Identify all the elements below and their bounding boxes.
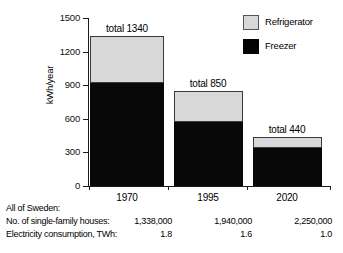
y-tick-1500	[83, 18, 88, 19]
legend-label-refrigerator: Refrigerator	[265, 16, 313, 28]
footer-row-electricity: Electricity consumption, TWh: 1.8 1.6 1.…	[6, 229, 338, 242]
bar-1970-freezer	[90, 83, 164, 186]
y-tick-label-900: 900	[0, 80, 80, 90]
footer-row-houses-caption: No. of single-family houses:	[6, 216, 110, 228]
x-tick-mid-1	[168, 186, 169, 190]
footer-row-electricity-value-1995: 1.6	[178, 229, 252, 241]
legend-swatch-refrigerator-icon	[243, 15, 259, 30]
y-tick-900	[83, 85, 88, 86]
legend-swatch-freezer-icon	[243, 39, 259, 54]
x-tick-label-2020: 2020	[257, 192, 317, 203]
total-label-1995: total 850	[162, 78, 254, 89]
y-tick-label-300: 300	[0, 147, 80, 157]
bar-1995-freezer	[174, 122, 243, 186]
footer-table: All of Sweden: No. of single-family hous…	[6, 203, 338, 242]
x-tick-label-1970: 1970	[97, 192, 157, 203]
x-tick-left	[89, 186, 90, 190]
bar-2020-refrigerator	[253, 137, 322, 148]
footer-row-houses-value-1995: 1,940,000	[178, 216, 252, 228]
x-axis-line	[88, 186, 331, 187]
total-label-1970: total 1340	[81, 23, 173, 34]
legend-item-freezer: Freezer	[243, 38, 343, 62]
footer-row-houses-value-2020: 2,250,000	[258, 216, 332, 228]
y-axis-line	[88, 18, 89, 187]
footer-row-houses-value-1970: 1,338,000	[98, 216, 172, 228]
y-tick-0	[83, 186, 88, 187]
bar-2020-freezer	[253, 148, 322, 186]
bar-2020	[253, 137, 322, 186]
footer-row-electricity-value-1970: 1.8	[98, 229, 172, 241]
bar-1995-refrigerator	[174, 91, 243, 122]
y-tick-300	[83, 152, 88, 153]
total-label-2020: total 440	[241, 124, 333, 135]
y-tick-label-0: 0	[0, 181, 80, 191]
y-tick-600	[83, 119, 88, 120]
bar-1970	[90, 36, 164, 186]
legend-label-freezer: Freezer	[265, 40, 296, 52]
footer-row-houses: No. of single-family houses: 1,338,000 1…	[6, 216, 338, 229]
x-tick-right	[330, 186, 331, 190]
y-axis-title-wrap: kWh/year	[30, 0, 74, 186]
footer-heading-row: All of Sweden:	[6, 203, 338, 216]
chart-legend: Refrigerator Freezer	[243, 14, 343, 62]
chart-figure: kWh/year 0 300 600 900 1200 1500 total 1…	[0, 0, 343, 253]
bar-1970-refrigerator	[90, 36, 164, 83]
y-tick-1200	[83, 52, 88, 53]
legend-item-refrigerator: Refrigerator	[243, 14, 343, 38]
footer-row-electricity-value-2020: 1.0	[258, 229, 332, 241]
footer-heading: All of Sweden:	[6, 203, 60, 215]
y-tick-label-1500: 1500	[0, 13, 80, 23]
y-tick-label-1200: 1200	[0, 47, 80, 57]
y-tick-label-600: 600	[0, 114, 80, 124]
bar-1995	[174, 91, 243, 186]
x-tick-label-1995: 1995	[178, 192, 238, 203]
x-tick-mid-2	[247, 186, 248, 190]
